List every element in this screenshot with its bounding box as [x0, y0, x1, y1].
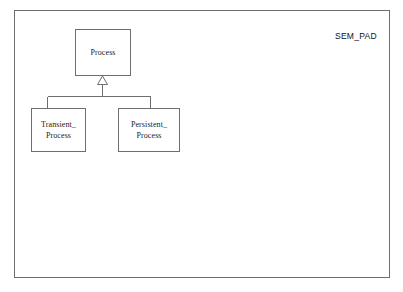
class-label-transient-process: Transient_ Process: [41, 119, 76, 141]
hollow-triangle-arrowhead: [98, 76, 108, 85]
pad-caption: SEM_PAD: [335, 31, 377, 41]
class-label-persistent-process: Persistent_ Process: [131, 119, 167, 141]
class-box-transient-process[interactable]: Transient_ Process: [31, 108, 86, 152]
class-box-persistent-process[interactable]: Persistent_ Process: [118, 108, 180, 152]
class-label-process: Process: [90, 47, 115, 58]
class-box-process[interactable]: Process: [75, 29, 131, 76]
diagram-canvas: Process Transient_ Process Persistent_ P…: [0, 0, 403, 292]
